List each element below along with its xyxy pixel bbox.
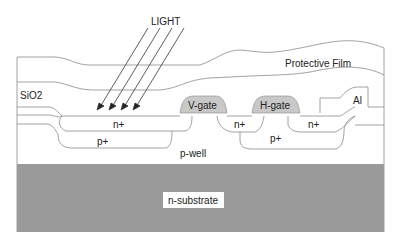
n-substrate-label: n-substrate — [168, 195, 218, 206]
al-label: Al — [353, 95, 362, 106]
n-plus-right-label: n+ — [308, 119, 320, 130]
n-plus-left-region — [59, 116, 192, 131]
protective-film-bottom — [17, 67, 384, 90]
sio2-label: SiO2 — [20, 90, 43, 101]
p-plus-right-label: p+ — [270, 133, 282, 144]
light-rays — [97, 28, 184, 110]
p-plus-left-label: p+ — [97, 136, 109, 147]
v-gate-label: V-gate — [188, 100, 217, 111]
p-plus-left-region — [58, 131, 172, 148]
protective-film-label: Protective Film — [285, 58, 351, 69]
left-taper-lower — [17, 124, 58, 134]
al-contact — [320, 87, 384, 113]
n-plus-right-region — [288, 116, 355, 132]
n-plus-mid-label: n+ — [234, 119, 246, 130]
p-plus-right-region — [240, 116, 355, 149]
light-label: LIGHT — [151, 16, 180, 27]
n-plus-left-label: n+ — [113, 119, 125, 130]
p-well-label: p-well — [180, 148, 206, 159]
h-gate-label: H-gate — [260, 100, 290, 111]
left-taper-upper — [17, 115, 62, 117]
sensor-cross-section-diagram: LIGHT Protective Film SiO2 V-gate H-gate… — [0, 0, 400, 246]
